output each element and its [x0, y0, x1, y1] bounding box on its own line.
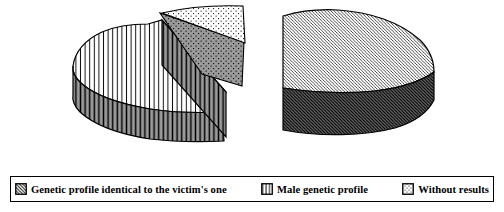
identical-slice-top-face: [283, 10, 434, 93]
figure-canvas: Genetic profile identical to the victim'…: [0, 0, 504, 212]
legend-item-label: Without results: [418, 184, 489, 195]
exploded-pie-chart: [0, 0, 504, 172]
legend-item: Without results: [402, 183, 489, 195]
diagonal-hatch-swatch-icon: [15, 183, 27, 195]
vertical-lines-swatch-icon: [261, 183, 273, 195]
pie-slice-identical-profile: [283, 10, 434, 135]
legend-item-label: Male genetic profile: [277, 184, 368, 195]
legend-item-label: Genetic profile identical to the victim'…: [31, 184, 227, 195]
chart-legend: Genetic profile identical to the victim'…: [10, 176, 494, 202]
dots-swatch-icon: [402, 183, 414, 195]
legend-item: Genetic profile identical to the victim'…: [15, 183, 227, 195]
legend-item: Male genetic profile: [261, 183, 368, 195]
